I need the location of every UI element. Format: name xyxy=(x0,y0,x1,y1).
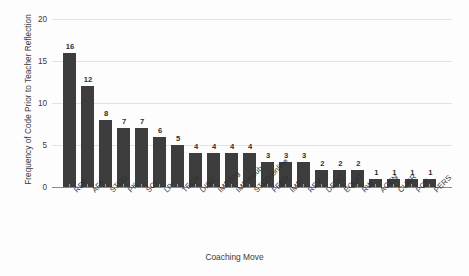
bar-group[interactable]: 2 xyxy=(331,19,349,187)
y-axis-title: Frequency of Code Prior to Teacher Refle… xyxy=(24,0,33,205)
bar-group[interactable]: 4 xyxy=(187,19,205,187)
bar[interactable] xyxy=(63,53,76,187)
y-axis-tick-label: 10 xyxy=(38,99,47,108)
bar-group[interactable]: 6 xyxy=(151,19,169,187)
bar-group[interactable]: 1 xyxy=(421,19,439,187)
x-axis-tick-mark xyxy=(177,184,178,187)
y-axis-tick-label: 5 xyxy=(42,141,47,150)
bar-group[interactable]: 1 xyxy=(385,19,403,187)
bar-value-label: 7 xyxy=(133,117,151,126)
bar-chart-figure: Frequency of Code Prior to Teacher Refle… xyxy=(0,0,469,276)
bar-group[interactable]: 3 xyxy=(295,19,313,187)
bar-value-label: 1 xyxy=(367,168,385,177)
bar-value-label: 2 xyxy=(313,159,331,168)
bar[interactable] xyxy=(153,137,166,187)
bar-group[interactable]: 16 xyxy=(61,19,79,187)
bar-value-label: 12 xyxy=(79,75,97,84)
bar-value-label: 4 xyxy=(223,142,241,151)
bar-group[interactable]: 4 xyxy=(223,19,241,187)
bar-value-label: 3 xyxy=(259,151,277,160)
bar-group[interactable]: 3 xyxy=(259,19,277,187)
bar-group[interactable]: 1 xyxy=(367,19,385,187)
x-axis-tick-labels: REFAFFSTUDPKSCILPTECHDISCIMP-logIMP-trou… xyxy=(52,188,452,246)
bar-value-label: 16 xyxy=(61,42,79,51)
bar-value-label: 4 xyxy=(187,142,205,151)
bars-container: 16128776544443332221111 xyxy=(52,19,452,187)
bar-value-label: 3 xyxy=(295,151,313,160)
bar-group[interactable]: 12 xyxy=(79,19,97,187)
bar-group[interactable]: 1 xyxy=(403,19,421,187)
bar-value-label: 4 xyxy=(241,142,259,151)
bar-value-label: 5 xyxy=(169,134,187,143)
bar-value-label: 6 xyxy=(151,126,169,135)
bar-value-label: 2 xyxy=(331,159,349,168)
y-axis-tick-label: 20 xyxy=(38,15,47,24)
bar-value-label: 4 xyxy=(205,142,223,151)
y-axis-tick-label: 0 xyxy=(42,183,47,192)
bar-group[interactable]: 2 xyxy=(313,19,331,187)
bar-group[interactable]: 7 xyxy=(133,19,151,187)
plot-area: 05101520 16128776544443332221111 xyxy=(52,19,452,187)
bar-group[interactable]: 4 xyxy=(205,19,223,187)
y-axis-tick-label: 15 xyxy=(38,57,47,66)
bar-group[interactable]: 2 xyxy=(349,19,367,187)
bar-group[interactable]: 5 xyxy=(169,19,187,187)
bar-value-label: 2 xyxy=(349,159,367,168)
x-axis-tick-mark xyxy=(141,184,142,187)
bar-group[interactable]: 8 xyxy=(97,19,115,187)
bar-value-label: 8 xyxy=(97,109,115,118)
bar-value-label: 7 xyxy=(115,117,133,126)
bar-group[interactable]: 7 xyxy=(115,19,133,187)
x-axis-tick-mark xyxy=(69,184,70,187)
bar-value-label: 1 xyxy=(421,168,439,177)
bar[interactable] xyxy=(81,86,94,187)
bar[interactable] xyxy=(135,128,148,187)
bar-group[interactable]: 4 xyxy=(241,19,259,187)
bar[interactable] xyxy=(171,145,184,187)
x-axis-title: Coaching Move xyxy=(0,252,469,262)
